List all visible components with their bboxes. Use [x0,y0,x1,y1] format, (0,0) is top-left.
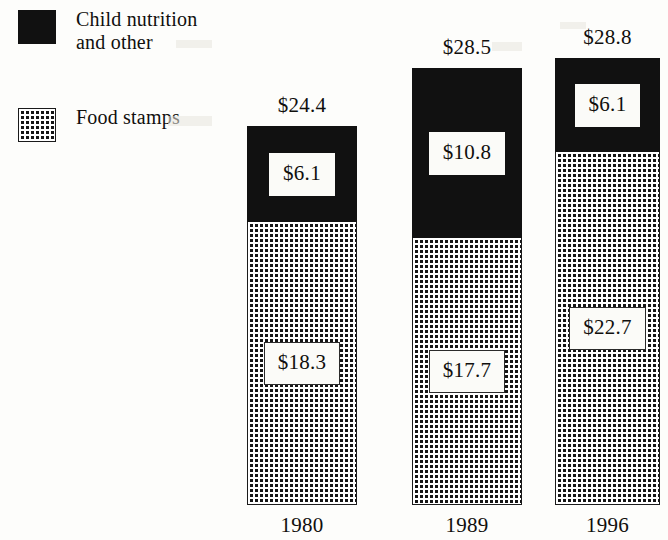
stacked-bar-chart: Child nutrition and other Food stamps $2… [0,0,668,540]
x-axis-tick-1996: 1996 [555,513,660,538]
bar-segment-food-stamps: $18.3 [247,222,357,505]
bar-segment-child-nutrition: $6.1 [247,126,357,222]
bar-segment-value-label: $18.3 [264,342,341,385]
legend-item-child-nutrition: Child nutrition and other [18,8,197,54]
bar-segment-value-label: $17.7 [429,350,506,393]
bar-segment-value-label: $10.8 [429,132,506,175]
bar-segment-child-nutrition: $10.8 [412,68,522,238]
bar-segment-value-label: $6.1 [269,153,335,196]
legend-item-label: Food stamps [76,106,180,129]
legend-solid-black-swatch-icon [18,10,56,44]
legend-item-label: Child nutrition and other [76,8,197,54]
bar-segment-value-label: $22.7 [569,307,646,350]
legend-item-food-stamps: Food stamps [18,106,180,142]
bar-group-1996: $28.8 $6.1 $22.7 [555,58,660,505]
bar-total-label: $28.5 [412,35,522,60]
bar-group-1980: $24.4 $6.1 $18.3 [247,126,357,505]
bar-segment-value-label: $6.1 [575,84,641,127]
x-axis-tick-1980: 1980 [247,513,357,538]
bar-segment-food-stamps: $17.7 [412,238,522,505]
bar-total-label: $24.4 [247,93,357,118]
bar-stack: $10.8 $17.7 [412,68,522,505]
bar-stack: $6.1 $22.7 [555,58,660,505]
bar-segment-food-stamps: $22.7 [555,152,660,505]
bar-total-label: $28.8 [555,25,660,50]
x-axis-tick-1989: 1989 [412,513,522,538]
bar-group-1989: $28.5 $10.8 $17.7 [412,68,522,505]
bar-segment-child-nutrition: $6.1 [555,58,660,152]
legend-dotted-pattern-swatch-icon [18,108,56,142]
bar-stack: $6.1 $18.3 [247,126,357,505]
